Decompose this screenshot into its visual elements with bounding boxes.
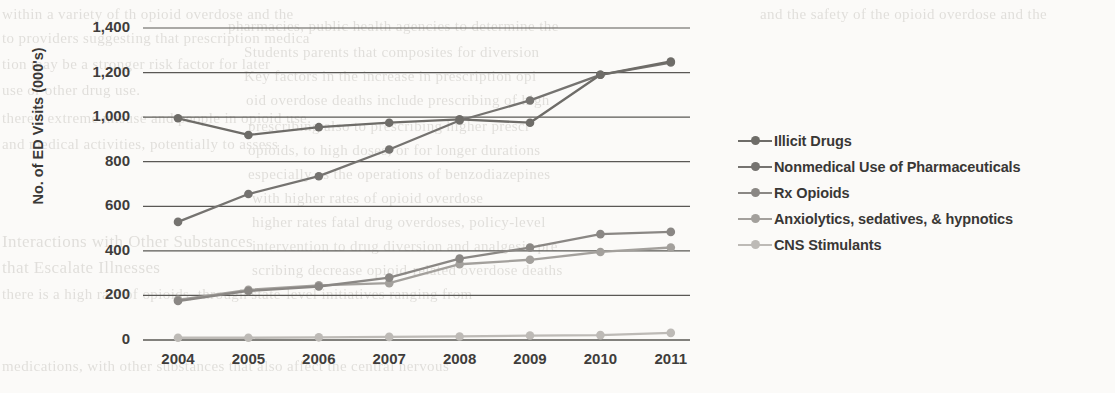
y-tick-label: 1,200 [38, 63, 130, 80]
data-point [667, 243, 676, 252]
x-tick-label: 2009 [495, 350, 565, 367]
y-tick-label: 800 [38, 152, 130, 169]
x-tick-label: 2010 [565, 350, 635, 367]
data-point [385, 273, 394, 282]
legend-marker-icon [738, 134, 772, 148]
y-tick-label: 200 [38, 285, 130, 302]
data-point [385, 333, 394, 342]
x-tick-label: 2004 [143, 350, 213, 367]
data-point [385, 118, 394, 127]
data-point [385, 145, 394, 154]
legend-label: CNS Stimulants [774, 237, 881, 253]
data-point [315, 172, 324, 181]
data-point [526, 96, 535, 105]
y-tick-label: 1,400 [38, 18, 130, 35]
y-tick-label: 600 [38, 196, 130, 213]
ed-visits-line-chart: 02004006008001,0001,2001,400 20042005200… [0, 0, 1115, 393]
legend-dot-icon [751, 188, 760, 197]
legend-label: Rx Opioids [774, 185, 850, 201]
legend-label: Anxiolytics, sedatives, & hypnotics [774, 211, 1013, 227]
series-line [178, 63, 671, 222]
data-point [526, 331, 535, 340]
x-tick-label: 2005 [213, 350, 283, 367]
data-point [596, 331, 605, 340]
legend-item-anxiolytics-sedatives-hypnotics[interactable]: Anxiolytics, sedatives, & hypnotics [738, 206, 1021, 232]
legend-marker-icon [738, 238, 772, 252]
data-point [174, 333, 183, 342]
legend-label: Illicit Drugs [774, 133, 852, 149]
data-point [455, 254, 464, 263]
chart-legend: Illicit DrugsNonmedical Use of Pharmaceu… [738, 128, 1021, 258]
legend-marker-icon [738, 186, 772, 200]
data-point [455, 115, 464, 124]
data-point [526, 243, 535, 252]
legend-item-cns-stimulants[interactable]: CNS Stimulants [738, 232, 1021, 258]
legend-dot-icon [751, 214, 760, 223]
y-tick-label: 1,000 [38, 107, 130, 124]
data-point [667, 228, 676, 237]
data-point [244, 131, 253, 140]
legend-dot-icon [751, 240, 760, 249]
x-tick-label: 2007 [354, 350, 424, 367]
data-point [667, 57, 676, 66]
data-point [596, 248, 605, 257]
data-point [667, 329, 676, 338]
data-point [455, 332, 464, 341]
legend-label: Nonmedical Use of Pharmaceuticals [774, 159, 1021, 175]
data-point [244, 287, 253, 296]
data-point [244, 333, 253, 342]
y-tick-label: 400 [38, 241, 130, 258]
data-point [174, 218, 183, 227]
legend-dot-icon [751, 162, 760, 171]
legend-item-rx-opioids[interactable]: Rx Opioids [738, 180, 1021, 206]
data-point [174, 297, 183, 306]
x-tick-label: 2008 [425, 350, 495, 367]
y-axis-title: No. of ED Visits (000's) [30, 26, 46, 226]
x-tick-label: 2011 [636, 350, 706, 367]
data-point [315, 282, 324, 291]
legend-marker-icon [738, 212, 772, 226]
data-point [596, 71, 605, 80]
data-point [315, 333, 324, 342]
legend-dot-icon [751, 136, 760, 145]
data-point [596, 230, 605, 239]
legend-item-illicit-drugs[interactable]: Illicit Drugs [738, 128, 1021, 154]
x-tick-label: 2006 [284, 350, 354, 367]
data-point [526, 118, 535, 127]
data-point [174, 114, 183, 123]
legend-marker-icon [738, 160, 772, 174]
data-point [526, 255, 535, 264]
legend-item-nonmedical-use-of-pharmaceuticals[interactable]: Nonmedical Use of Pharmaceuticals [738, 154, 1021, 180]
y-tick-label: 0 [38, 330, 130, 347]
data-point [244, 190, 253, 199]
data-point [315, 123, 324, 132]
